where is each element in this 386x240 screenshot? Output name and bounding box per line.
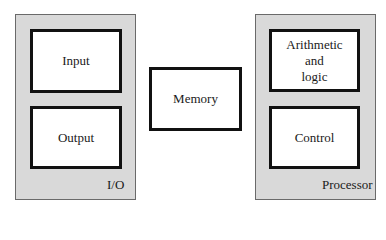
input-box: Input — [30, 29, 122, 93]
alu-box: Arithmetic and logic — [269, 29, 360, 92]
alu-label: Arithmetic and logic — [286, 37, 342, 85]
control-box: Control — [269, 106, 360, 169]
output-box: Output — [30, 106, 122, 169]
processor-label: Processor — [322, 177, 373, 192]
memory-box: Memory — [149, 67, 242, 131]
output-label: Output — [58, 130, 94, 146]
io-label: I/O — [107, 177, 124, 192]
input-label: Input — [62, 53, 89, 69]
control-label: Control — [295, 130, 335, 146]
memory-label: Memory — [173, 91, 218, 107]
